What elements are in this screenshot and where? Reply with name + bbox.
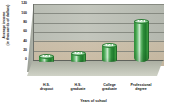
bar-3 — [134, 21, 149, 62]
x-axis-label-0: H.S.dropout — [30, 83, 64, 91]
bar-0 — [39, 56, 54, 62]
bar-1 — [71, 54, 86, 62]
chart-container: Average income (in thousands of dollars)… — [0, 0, 169, 108]
bar-shading — [102, 46, 117, 62]
x-axis-label-3: Professionaldegree — [124, 83, 158, 91]
x-axis-label-line: graduate — [93, 87, 127, 91]
bar-2 — [102, 46, 117, 62]
plot-area — [27, 4, 163, 76]
y-axis-title-line1: Average income — [2, 12, 6, 39]
bar-series — [27, 4, 163, 76]
x-axis-label-1: H.S.graduate — [61, 83, 95, 91]
y-axis-title-line2: (in thousands of dollars) — [6, 5, 10, 46]
y-axis-tick-labels: 020406080100120 — [14, 0, 27, 80]
x-axis-label-line: graduate — [61, 87, 95, 91]
x-axis-title: Years of school — [0, 99, 169, 103]
x-axis-category-labels: H.S.dropoutH.S.graduateCollegegraduatePr… — [27, 83, 163, 99]
x-axis-label-2: Collegegraduate — [93, 83, 127, 91]
x-axis-label-line: degree — [124, 87, 158, 91]
x-axis-label-line: dropout — [30, 87, 64, 91]
bar-shading — [134, 21, 149, 62]
y-axis-title: Average income (in thousands of dollars) — [0, 0, 13, 57]
